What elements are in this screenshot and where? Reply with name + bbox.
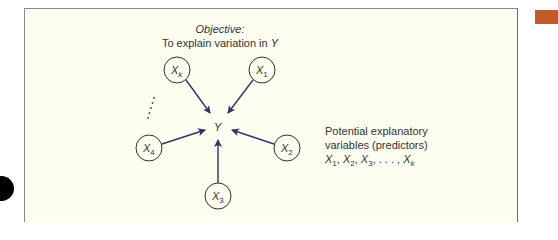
legend-line-1: Potential explanatory — [325, 124, 428, 138]
legend-line-2: variables (predictors) — [325, 138, 428, 152]
objective-label: Objective: — [150, 23, 290, 35]
arrow-xk-to-y — [186, 80, 210, 113]
objective-text: To explain variation in Y — [150, 37, 290, 49]
node-x1: X1 — [249, 57, 275, 83]
legend-predictor-list: X1, X2, X3, . . . , Xk — [325, 152, 415, 171]
node-x3: X3 — [205, 183, 231, 209]
node-xk: Xk — [164, 57, 190, 83]
node-y: Y — [214, 121, 222, 133]
arrow-x4-to-y — [162, 130, 205, 144]
node-x4: X4 — [136, 135, 162, 161]
ellipsis-dots — [147, 97, 155, 119]
arrow-x1-to-y — [228, 80, 253, 113]
node-x2: X2 — [274, 135, 300, 161]
arrow-x2-to-y — [232, 130, 274, 144]
